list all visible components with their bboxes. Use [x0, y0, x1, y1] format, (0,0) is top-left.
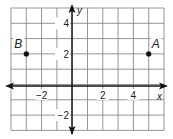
x-tick-label: 2: [100, 90, 106, 101]
x-tick-label: 4: [131, 90, 137, 101]
x-tick-label: −2: [36, 90, 48, 101]
x-axis-label: x: [156, 91, 163, 102]
grid-lines: [11, 8, 164, 130]
point-label-a: A: [151, 37, 160, 51]
point-a: [146, 51, 151, 56]
y-tick-label: 2: [63, 49, 69, 60]
point-b: [24, 51, 29, 56]
y-tick-label: −2: [58, 110, 70, 121]
point-label-b: B: [14, 37, 22, 51]
coordinate-plane: −22442−2 AB x y: [0, 0, 173, 139]
y-axis-label: y: [76, 5, 83, 16]
y-tick-label: 4: [63, 18, 69, 29]
